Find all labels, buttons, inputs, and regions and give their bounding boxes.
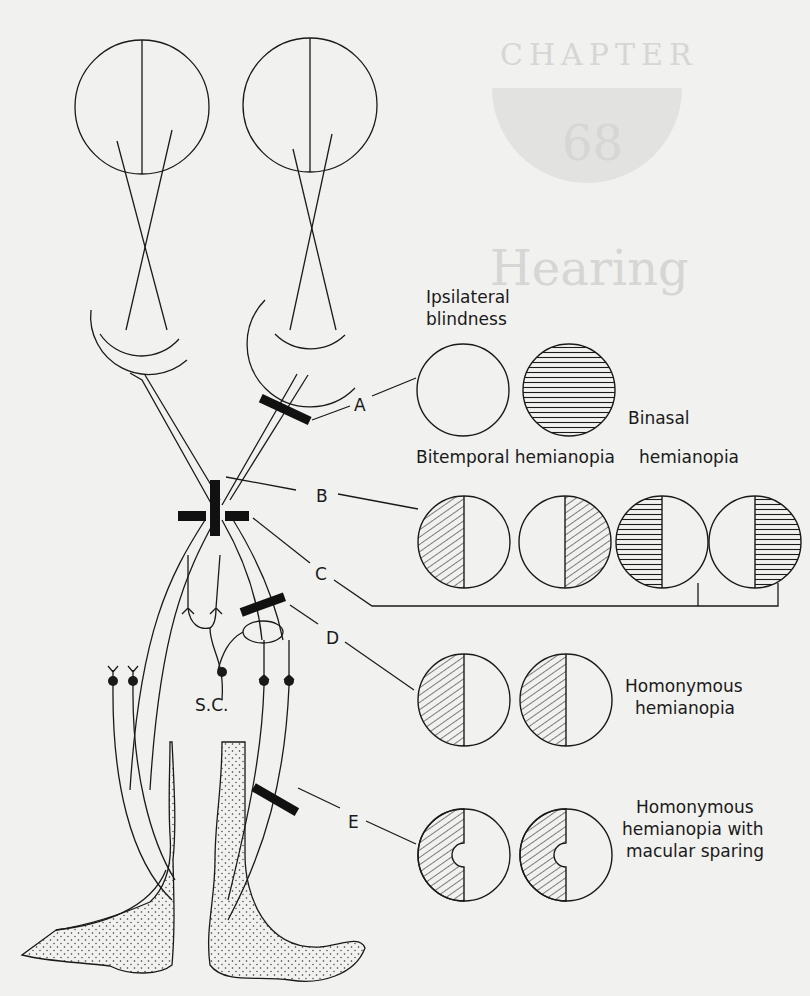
lesion-label-e: E	[348, 812, 359, 832]
ghost-heading: Hearing	[490, 240, 689, 296]
ghost-chapter-word: CHAPTER	[500, 37, 697, 72]
right-retina	[247, 300, 355, 407]
lesion-bar-a	[259, 394, 312, 425]
lesion-bar-b	[210, 480, 220, 536]
field-c-right	[709, 496, 801, 588]
sc-label: S.C.	[195, 695, 228, 715]
label-ipsilateral-blindness-1: Ipsilateral	[426, 287, 510, 307]
lesion-bar-c-right	[225, 511, 249, 521]
lesion-label-c: C	[315, 564, 327, 584]
label-macular-sparing-2: hemianopia with	[622, 819, 764, 839]
lesion-bar-c-left	[178, 511, 206, 521]
field-c-left	[616, 496, 708, 588]
ghost-chapter-header: CHAPTER 68 Hearing	[490, 37, 697, 296]
ghost-chapter-number: 68	[562, 115, 623, 171]
visual-pathway-lesion-diagram: CHAPTER 68 Hearing	[0, 0, 810, 996]
nucleus-dots	[108, 667, 294, 686]
lesion-label-d: D	[326, 628, 339, 648]
label-homonymous-hemianopia-1: Homonymous	[625, 676, 743, 696]
lesion-label-b: B	[316, 486, 328, 506]
left-occipital-cortex	[22, 742, 175, 973]
field-d-left	[418, 654, 510, 746]
field-b-right	[519, 496, 611, 588]
field-e-right	[520, 809, 612, 901]
right-occipital-cortex	[209, 742, 365, 981]
right-eye	[243, 38, 377, 330]
label-binasal-2: hemianopia	[639, 447, 739, 467]
lesion-bar-d	[240, 592, 286, 616]
label-homonymous-hemianopia-2: hemianopia	[635, 698, 735, 718]
label-ipsilateral-blindness-2: blindness	[426, 309, 507, 329]
field-e-left	[418, 809, 510, 901]
label-macular-sparing-3: macular sparing	[626, 841, 764, 861]
field-d-right	[520, 654, 612, 746]
lesion-label-a: A	[354, 395, 366, 415]
optic-tracts	[130, 518, 283, 790]
field-b-left	[418, 496, 510, 588]
label-bitemporal-hemianopia: Bitemporal hemianopia	[416, 447, 615, 467]
left-retina	[91, 310, 187, 375]
optic-radiations	[113, 686, 289, 920]
label-binasal-1: Binasal	[628, 408, 690, 428]
field-a-right	[523, 344, 615, 436]
field-a-left	[417, 344, 509, 436]
lesion-bar-e	[251, 783, 299, 816]
label-macular-sparing-1: Homonymous	[636, 797, 754, 817]
left-eye	[75, 40, 209, 330]
